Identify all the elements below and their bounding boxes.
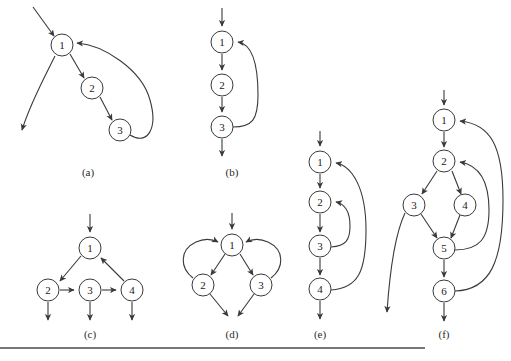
- panel-a-node-3-label: 3: [117, 124, 123, 136]
- panel-b-node-1-label: 1: [219, 36, 225, 48]
- panel-d-node-2-label: 2: [200, 279, 206, 291]
- panel-c-edge-4-1: [101, 258, 124, 281]
- panel-e-node-2-label: 2: [317, 196, 323, 208]
- panel-a: 1 2 3 (a): [22, 7, 153, 179]
- panel-f-edge-2-4: [452, 171, 461, 194]
- panel-e-edge-4-1-back: [331, 163, 366, 290]
- panel-f-caption: (f): [439, 328, 450, 341]
- panel-d-node-1-label: 1: [229, 239, 235, 251]
- panel-d-edge-1-2: [211, 254, 225, 275]
- panel-f-node-2-label: 2: [441, 155, 447, 167]
- panel-a-exit-edge: [22, 56, 55, 130]
- panel-f-edge-3-5: [421, 214, 437, 238]
- panel-d-exit-edge-2: [210, 294, 228, 316]
- panel-e-node-3-label: 3: [317, 240, 323, 252]
- panel-f-node-4-label: 4: [462, 199, 468, 211]
- panel-f: 1 2 3 4 5 6 (f): [387, 90, 503, 341]
- panel-f-node-6-label: 6: [441, 285, 447, 297]
- panel-a-caption: (a): [82, 166, 95, 179]
- panel-a-node-1-label: 1: [59, 39, 65, 51]
- panel-b-node-3-label: 3: [219, 121, 225, 133]
- panel-b-edge-3-1-back: [233, 42, 258, 127]
- control-flow-graph-figure: 1 2 3 (a) 1 2 3 (b): [0, 0, 511, 361]
- panel-b-node-2-label: 2: [219, 79, 225, 91]
- panel-a-edge-2-3: [100, 97, 112, 120]
- panel-f-edge-4-5: [451, 215, 460, 238]
- figure-container: 1 2 3 (a) 1 2 3 (b): [0, 0, 511, 361]
- panel-a-entry-edge: [33, 7, 54, 36]
- panel-c-node-2-label: 2: [45, 284, 51, 296]
- panel-f-node-5-label: 5: [441, 242, 447, 254]
- panel-b-caption: (b): [226, 166, 239, 179]
- panel-a-edge-1-2: [70, 54, 84, 78]
- panel-e-node-4-label: 4: [317, 283, 323, 295]
- panel-f-exit-edge-3: [387, 213, 405, 312]
- panel-c-edge-1-2: [60, 256, 81, 281]
- panel-a-node-2-label: 2: [89, 82, 95, 94]
- panel-c-node-1-label: 1: [87, 242, 93, 254]
- panel-d-exit-edge-3: [238, 294, 254, 316]
- panel-f-node-1-label: 1: [441, 114, 447, 126]
- panel-f-node-3-label: 3: [411, 199, 417, 211]
- panel-c-caption: (c): [84, 328, 97, 341]
- panel-c: 1 2 3 4 (c): [37, 214, 143, 341]
- panel-c-node-3-label: 3: [87, 284, 93, 296]
- panel-e-caption: (e): [314, 328, 327, 341]
- panel-f-edge-2-3: [422, 171, 437, 194]
- panel-e-edge-3-2-back: [331, 202, 350, 247]
- panel-d: 1 2 3 (d): [183, 213, 281, 341]
- panel-e-node-1-label: 1: [317, 156, 323, 168]
- panel-d-caption: (d): [226, 328, 239, 341]
- panel-d-edge-1-3: [240, 254, 253, 275]
- panel-d-node-3-label: 3: [258, 279, 264, 291]
- panel-e: 1 2 3 4 (e): [309, 131, 366, 341]
- panel-b: 1 2 3 (b): [211, 8, 258, 179]
- panel-c-node-4-label: 4: [129, 284, 135, 296]
